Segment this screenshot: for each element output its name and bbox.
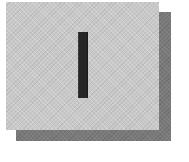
graphic-stage: I <box>0 0 189 162</box>
textured-card: I <box>6 2 159 130</box>
bar-glyph-label: I <box>78 32 79 33</box>
vertical-bar-icon: I <box>78 32 88 98</box>
